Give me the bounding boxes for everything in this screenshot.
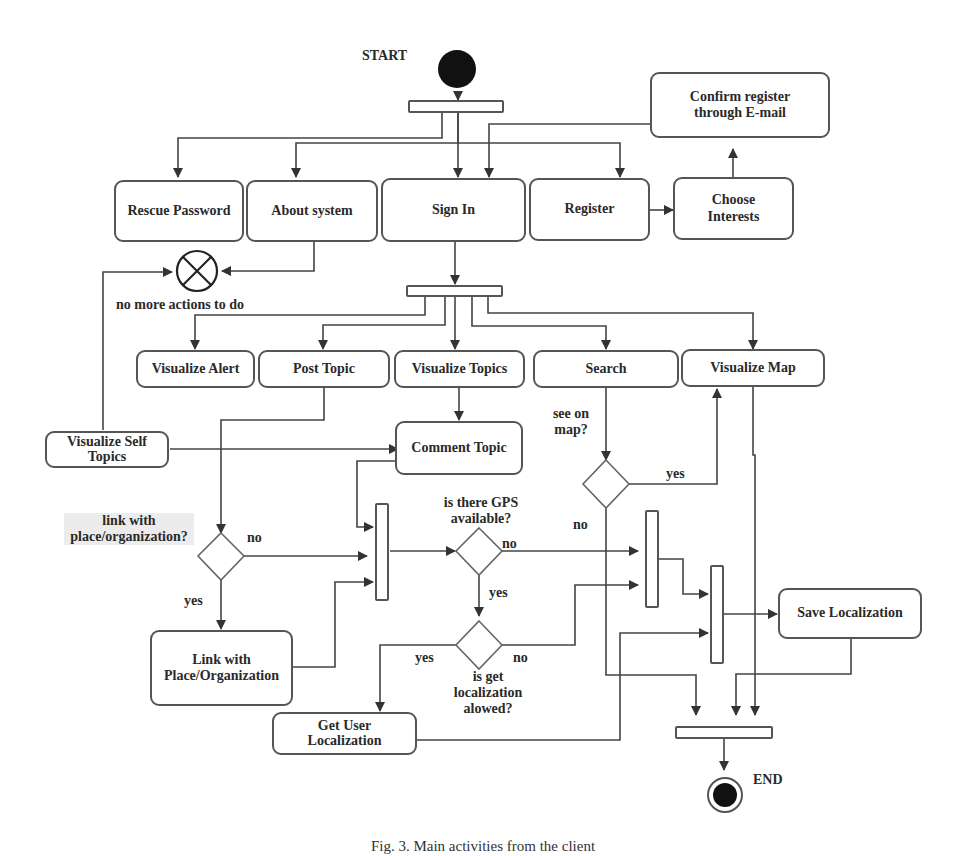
decision-see-on-map: [583, 460, 629, 508]
activity-diagram: START END Rescue Password About system S…: [0, 0, 966, 856]
action-link-with-place: Link with Place/Organization: [150, 630, 293, 706]
fork-bar-1: [408, 100, 504, 113]
fork-bar-2: [406, 285, 503, 297]
decision-label-gps: is there GPS available?: [431, 495, 531, 527]
decision-localization: [456, 621, 502, 669]
action-comment-topic: Comment Topic: [395, 421, 523, 475]
action-save-localization: Save Localization: [778, 588, 922, 639]
action-confirm-register: Confirm register through E-mail: [650, 72, 830, 138]
action-register: Register: [529, 178, 650, 241]
action-post-topic: Post Topic: [258, 350, 390, 388]
guard-no-loc: no: [513, 650, 528, 666]
join-bar-1: [375, 503, 389, 601]
join-bar-2: [645, 510, 659, 608]
action-visualize-topics: Visualize Topics: [394, 350, 525, 388]
guard-no-link: no: [247, 530, 262, 546]
guard-yes-gps: yes: [489, 585, 508, 601]
decision-label-see-on-map: see on map?: [551, 406, 591, 438]
start-node: [438, 50, 476, 88]
guard-yes-map: yes: [666, 466, 685, 482]
guard-no-map: no: [573, 517, 588, 533]
guard-yes-loc: yes: [415, 650, 434, 666]
action-get-user-localization: Get User Localization: [272, 712, 417, 755]
guard-no-gps: no: [502, 536, 517, 552]
flow-final-label: no more actions to do: [116, 297, 244, 313]
action-visualize-map: Visualize Map: [681, 349, 825, 387]
join-bar-3: [710, 565, 724, 664]
end-join-bar: [675, 726, 773, 739]
flow-final-icon: [177, 251, 217, 291]
decision-gps: [456, 528, 502, 575]
action-search: Search: [533, 350, 679, 388]
decision-label-localization: is get localization alowed?: [448, 669, 528, 717]
action-rescue-password: Rescue Password: [114, 180, 244, 242]
guard-yes-link: yes: [184, 593, 203, 609]
decision-label-link-place: link with place/organization?: [64, 513, 194, 545]
action-about-system: About system: [246, 180, 378, 242]
action-sign-in: Sign In: [381, 178, 526, 242]
action-visualize-alert: Visualize Alert: [136, 350, 255, 388]
end-label: END: [753, 772, 783, 788]
action-visualize-self-topics: Visualize Self Topics: [45, 431, 169, 468]
start-label: START: [362, 48, 407, 64]
decision-link-place: [198, 533, 244, 580]
action-choose-interests: Choose Interests: [673, 177, 794, 240]
figure-caption: Fig. 3. Main activities from the client: [0, 838, 966, 855]
